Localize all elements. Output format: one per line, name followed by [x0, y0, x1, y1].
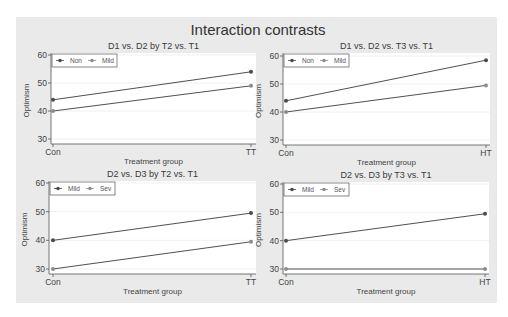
legend-label-mild: Mild: [302, 186, 314, 193]
data-point-mild: [483, 212, 487, 216]
x-axis-label: Treatment group: [124, 157, 183, 166]
x-tick-label: HT: [480, 148, 491, 158]
y-tick-label: 30: [36, 264, 46, 274]
y-axis-label: Optimism: [20, 212, 29, 246]
y-tick-label: 40: [270, 107, 280, 117]
x-tick-label: Con: [278, 148, 294, 158]
data-point-mild: [284, 110, 288, 114]
y-tick-label: 60: [36, 178, 46, 188]
x-tick-label: Con: [45, 147, 61, 157]
y-axis-label: Optimism: [254, 84, 263, 118]
data-point-mild: [249, 211, 253, 215]
y-tick-label: 40: [36, 235, 46, 245]
data-point-mild: [249, 84, 253, 88]
data-point-non: [284, 99, 288, 103]
x-tick-label: TT: [246, 277, 256, 287]
data-point-non: [249, 70, 253, 74]
y-tick-label: 40: [38, 106, 48, 116]
y-tick-label: 30: [270, 135, 280, 145]
x-axis-label: Treatment group: [123, 287, 182, 296]
y-tick-label: 60: [270, 51, 280, 61]
legend-marker-icon: [290, 188, 294, 192]
data-point-sev: [284, 267, 288, 271]
data-point-sev: [483, 267, 487, 271]
data-point-mild: [484, 83, 488, 87]
x-tick-label: TT: [246, 147, 256, 157]
panel-title: D1 vs. D2 by T2 vs. T1: [108, 41, 199, 51]
legend: MildSev: [284, 183, 349, 196]
data-point-mild: [51, 109, 55, 113]
x-axis-label: Treatment group: [357, 158, 416, 167]
x-tick-label: Con: [278, 277, 294, 287]
y-tick-label: 50: [270, 207, 280, 217]
legend-label-non: Non: [70, 57, 82, 64]
y-tick-label: 30: [270, 264, 280, 274]
x-tick-label: Con: [45, 277, 61, 287]
data-point-sev: [249, 240, 253, 244]
legend-marker-icon: [322, 59, 326, 63]
legend: NonMild: [284, 54, 349, 67]
legend-marker-icon: [290, 59, 294, 63]
x-axis-label: Treatment group: [357, 287, 416, 296]
data-point-mild: [51, 238, 55, 242]
x-tick-label: HT: [479, 277, 490, 287]
legend-marker-icon: [88, 187, 92, 191]
y-tick-label: 30: [38, 134, 48, 144]
y-tick-label: 60: [38, 50, 48, 60]
panel-title: D1 vs. D2 vs. T3 vs. T1: [340, 41, 433, 51]
legend-label-mild: Mild: [68, 185, 80, 192]
y-tick-label: 50: [270, 79, 280, 89]
legend-label-sev: Sev: [334, 186, 346, 193]
data-point-non: [484, 58, 488, 62]
legend-label-non: Non: [302, 57, 314, 64]
y-tick-label: 60: [270, 179, 280, 189]
legend: NonMild: [52, 54, 117, 67]
interaction-contrasts-figure: Interaction contrasts D1 vs. D2 by T2 vs…: [0, 0, 508, 317]
y-axis-label: Optimism: [22, 83, 31, 117]
data-point-mild: [284, 239, 288, 243]
data-point-non: [51, 98, 55, 102]
legend-label-mild: Mild: [334, 57, 346, 64]
legend-marker-icon: [90, 59, 94, 63]
panel-title: D2 vs. D3 by T3 vs. T1: [340, 170, 431, 180]
legend-marker-icon: [56, 187, 60, 191]
legend-label-mild: Mild: [102, 57, 114, 64]
legend-marker-icon: [58, 59, 62, 63]
legend-marker-icon: [322, 188, 326, 192]
legend: MildSev: [50, 182, 115, 195]
y-axis-label: Optimism: [254, 213, 263, 247]
chart-title: Interaction contrasts: [190, 21, 325, 38]
y-tick-label: 50: [36, 207, 46, 217]
legend-label-sev: Sev: [100, 185, 112, 192]
y-tick-label: 50: [38, 78, 48, 88]
panel-title: D2 vs. D3 by T2 vs. T1: [107, 169, 198, 179]
data-point-sev: [51, 267, 55, 271]
y-tick-label: 40: [270, 236, 280, 246]
